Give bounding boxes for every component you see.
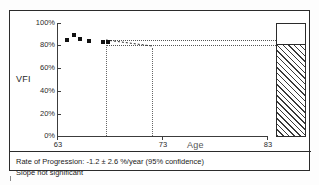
y-axis-line xyxy=(57,23,58,137)
summary-bar-filled-hatch xyxy=(277,44,305,136)
x-tick-label-63: 63 xyxy=(48,141,68,149)
data-point xyxy=(72,33,76,37)
x-tick-label-83: 83 xyxy=(258,141,278,149)
x-tick-label-73: 73 xyxy=(153,141,173,149)
y-tick-label-100: 100% xyxy=(10,19,55,27)
y-tick-label-40: 40% xyxy=(10,87,55,95)
data-point xyxy=(87,39,91,43)
reference-line-vertical-projection xyxy=(152,48,153,136)
y-tick-60 xyxy=(57,68,61,69)
y-tick-100 xyxy=(57,23,61,24)
y-tick-label-20: 20% xyxy=(10,110,55,118)
y-axis-title: VFI xyxy=(16,74,31,84)
page-artifact-mark xyxy=(10,176,11,181)
plot-area: 100% 80% 60% 40% 20% 0% 63 73 83 VFI Age xyxy=(10,11,311,172)
y-tick-20 xyxy=(57,114,61,115)
reference-line-vertical-last-visit xyxy=(106,43,107,136)
data-point xyxy=(106,40,110,44)
footer-divider xyxy=(10,151,311,152)
y-tick-80 xyxy=(57,45,61,46)
significance-text: Slope not significant xyxy=(16,168,83,177)
y-tick-label-60: 60% xyxy=(10,64,55,72)
rate-of-progression-text: Rate of Progression: -1.2 ± 2.6 %/year (… xyxy=(16,157,204,166)
vfi-progression-chart-panel: 100% 80% 60% 40% 20% 0% 63 73 83 VFI Age xyxy=(0,0,319,185)
y-tick-label-80: 80% xyxy=(10,41,55,49)
data-point xyxy=(101,40,105,44)
y-tick-label-0: 0% xyxy=(10,132,55,140)
x-axis-title: Age xyxy=(187,140,204,150)
chart-frame: 100% 80% 60% 40% 20% 0% 63 73 83 VFI Age xyxy=(9,10,310,171)
data-point xyxy=(65,38,69,42)
y-tick-40 xyxy=(57,91,61,92)
data-point xyxy=(78,37,82,41)
summary-bar xyxy=(276,23,306,137)
